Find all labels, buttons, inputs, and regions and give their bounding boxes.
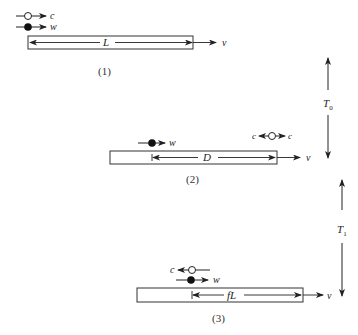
particle-w-filled: w <box>16 21 57 32</box>
c-left-label: c <box>252 131 256 141</box>
T1-label: T1 <box>337 223 347 238</box>
caption-2: (2) <box>186 173 199 186</box>
particle-w-filled: w <box>176 274 220 285</box>
c-label: c <box>170 264 175 275</box>
length-label-L: L <box>102 36 109 48</box>
panel-3: c w fL v (3) <box>137 264 332 325</box>
panel-1: c w L v (1) <box>16 10 227 78</box>
w-label: w <box>169 137 176 148</box>
particle-w-filled: w <box>138 137 176 148</box>
interval-T1: T1 <box>337 180 347 296</box>
c-label: c <box>50 10 55 21</box>
caption-3: (3) <box>212 312 225 325</box>
panel-2: w c c D v (2) <box>110 131 311 186</box>
length-label-D: D <box>202 151 211 163</box>
c-right-label: c <box>288 131 292 141</box>
interval-T0: T0 <box>323 58 333 158</box>
diagram-canvas: c w L v (1) T0 w c c <box>0 0 358 335</box>
w-label: w <box>50 21 57 32</box>
w-label: w <box>213 274 220 285</box>
particle-c-hollow: c <box>170 264 210 275</box>
particle-c-hollow: c <box>16 10 55 21</box>
velocity-label: v <box>222 37 227 48</box>
T0-label: T0 <box>323 97 333 112</box>
velocity-label: v <box>327 290 332 301</box>
particle-c-hollow-bidirectional: c c <box>252 131 292 141</box>
caption-1: (1) <box>98 65 111 78</box>
length-label-fL: fL <box>227 289 236 301</box>
velocity-label: v <box>306 152 311 163</box>
